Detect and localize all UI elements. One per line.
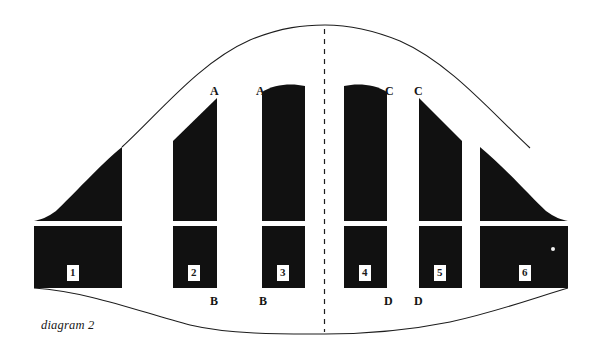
bar-number-4: 4 bbox=[359, 265, 371, 281]
bar-number-3: 3 bbox=[277, 265, 289, 281]
lower-envelope-curve bbox=[34, 288, 568, 334]
segment-label-c-left: C bbox=[385, 85, 394, 97]
paper-speck bbox=[551, 247, 555, 251]
upper-envelope-curve bbox=[122, 25, 530, 148]
segment-label-b-left: B bbox=[210, 295, 218, 307]
bar-1-upper-segment bbox=[34, 147, 122, 221]
bar-6-upper-segment bbox=[480, 147, 568, 221]
bar-number-6: 6 bbox=[519, 265, 531, 281]
bar-3-upper-segment bbox=[262, 84, 305, 221]
diagram-figure bbox=[0, 0, 600, 359]
bar-number-5: 5 bbox=[434, 265, 446, 281]
diagram-canvas: A A C C B B D D 1 2 3 4 5 6 diagram 2 bbox=[0, 0, 600, 359]
segment-label-a-right: A bbox=[256, 85, 265, 97]
segment-label-b-right: B bbox=[259, 295, 267, 307]
segment-label-d-right: D bbox=[414, 295, 423, 307]
bar-5-upper-segment bbox=[419, 98, 462, 221]
bar-2-upper-segment bbox=[173, 98, 217, 221]
bar-number-1: 1 bbox=[67, 265, 79, 281]
segment-label-d-left: D bbox=[384, 295, 393, 307]
bar-4-upper-segment bbox=[344, 84, 387, 221]
bar-number-2: 2 bbox=[188, 265, 200, 281]
segment-label-a-left: A bbox=[210, 85, 219, 97]
figure-caption: diagram 2 bbox=[41, 318, 95, 333]
segment-label-c-right: C bbox=[414, 85, 423, 97]
